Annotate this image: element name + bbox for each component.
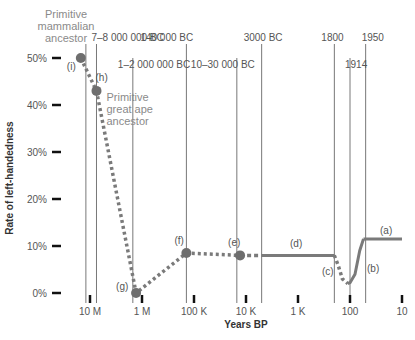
era-label: 1914 [345, 59, 368, 70]
annotation-text: ancestor [106, 115, 149, 127]
x-axis: 10 M1 M100 K10 K1 K10010 [79, 295, 408, 317]
series-line [81, 58, 240, 293]
y-tick-label: 20% [27, 194, 47, 205]
y-tick-label: 0% [33, 288, 48, 299]
y-tick-label: 40% [27, 100, 47, 111]
data-point [91, 86, 101, 96]
data-point [235, 250, 245, 260]
era-label: 140 000 BC [140, 32, 193, 43]
x-tick-label: 10 K [236, 306, 257, 317]
series-label: (a) [380, 225, 392, 236]
era-label: 10–30 000 BC [191, 59, 255, 70]
x-tick-label: 100 K [181, 306, 207, 317]
points-group: (i)(h)(g)(f)(e)(d)(c)(b)(a) [67, 53, 392, 298]
point-label: (e) [228, 237, 240, 248]
x-tick-label: 1 K [290, 306, 305, 317]
y-tick-label: 50% [27, 53, 47, 64]
era-label: 1–2 000 000 BC [118, 59, 190, 70]
series-label: (d) [290, 238, 302, 249]
y-tick-label: 30% [27, 147, 47, 158]
annotation-text: Primitive [45, 8, 87, 20]
data-point [131, 288, 141, 298]
x-tick-label: 10 [396, 306, 408, 317]
series-label: (b) [367, 263, 379, 274]
data-point [181, 248, 191, 258]
series-label: (c) [322, 266, 334, 277]
series-line [334, 255, 348, 283]
era-label: 3000 BC [244, 32, 283, 43]
x-tick-label: 1 M [134, 306, 151, 317]
annotation-text: Primitive [106, 91, 148, 103]
y-axis: 50%40%30%20%10%0% [27, 53, 61, 299]
y-tick-label: 10% [27, 241, 47, 252]
x-tick-label: 10 M [79, 306, 101, 317]
y-axis-title: Rate of left-handedness [4, 121, 15, 235]
annotation-text: ancestor [45, 32, 88, 44]
point-label: (f) [174, 235, 183, 246]
annotation-text: mammalian [38, 20, 95, 32]
point-label: (h) [95, 72, 107, 83]
era-lines [86, 44, 366, 303]
annotation-text: great ape [106, 103, 152, 115]
era-label: 1800 [321, 32, 344, 43]
data-point [76, 53, 86, 63]
era-labels: 7–8 000 000 BC1–2 000 000 BC140 000 BC10… [91, 32, 384, 70]
era-label: 1950 [362, 32, 385, 43]
x-axis-title: Years BP [224, 319, 268, 330]
point-label: (i) [67, 61, 76, 72]
chart-svg: 7–8 000 000 BC1–2 000 000 BC140 000 BC10… [0, 0, 415, 340]
x-tick-label: 100 [342, 306, 359, 317]
point-label: (g) [116, 281, 128, 292]
